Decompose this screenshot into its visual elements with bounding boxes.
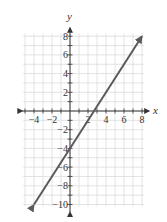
coordinate-graph: −4−224688642−2−4−6−8−10 x y bbox=[0, 0, 167, 222]
x-tick-label: 6 bbox=[122, 114, 127, 125]
y-tick-label: −8 bbox=[57, 180, 68, 191]
x-tick-label: 8 bbox=[140, 114, 145, 125]
x-tick-label: 4 bbox=[104, 114, 109, 125]
x-axis-label: x bbox=[152, 104, 158, 116]
y-tick-label: 4 bbox=[63, 68, 68, 79]
x-tick-label: −4 bbox=[29, 114, 40, 125]
y-tick-label: −2 bbox=[57, 124, 68, 135]
x-tick-label: −2 bbox=[47, 114, 58, 125]
y-axis-label: y bbox=[66, 10, 72, 22]
y-tick-label: 6 bbox=[63, 49, 68, 60]
y-tick-label: 2 bbox=[63, 87, 68, 98]
y-tick-label: 8 bbox=[63, 31, 68, 42]
y-tick-label: −10 bbox=[52, 199, 68, 210]
